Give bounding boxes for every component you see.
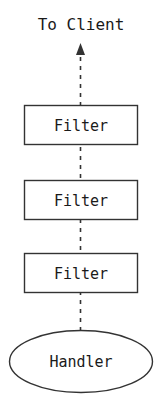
filter-chain-diagram: Filter Filter Filter Handler To Client <box>0 0 163 410</box>
handler-label: Handler <box>49 353 112 371</box>
filter-2-label: Filter <box>54 192 108 210</box>
filter-1-label: Filter <box>54 117 108 135</box>
node-handler[interactable]: Handler <box>10 331 153 393</box>
to-client-arrowhead <box>76 43 85 55</box>
diagram-title: To Client <box>38 15 125 34</box>
node-filter-3[interactable]: Filter <box>25 254 138 293</box>
diagram-canvas: Filter Filter Filter Handler To Client <box>0 0 163 410</box>
node-filter-1[interactable]: Filter <box>25 106 138 145</box>
node-filter-2[interactable]: Filter <box>25 181 138 220</box>
filter-3-label: Filter <box>54 265 108 283</box>
